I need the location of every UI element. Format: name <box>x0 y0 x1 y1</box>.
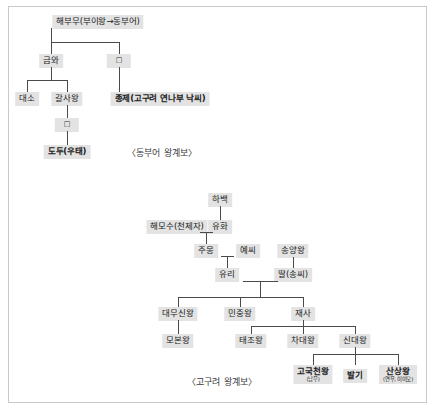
node-unnamed-descendant-box[interactable]: □ <box>55 118 79 132</box>
node-mobonwang[interactable]: 모본왕 <box>162 334 193 348</box>
node-yuri[interactable]: 유리 <box>215 268 239 282</box>
connector-sindaewang-stem <box>355 347 356 354</box>
connector-haebumu-siblings-bar <box>51 42 120 43</box>
connector-geumwa-children-bar <box>27 80 68 81</box>
node-gogukcheonwang[interactable]: 고국천왕 (남무) <box>293 365 332 384</box>
node-sansangwang-sublabel: (연우, 이이모) <box>383 377 413 383</box>
node-minjungwang[interactable]: 민중왕 <box>224 307 255 321</box>
node-daeso[interactable]: 대소 <box>15 92 39 106</box>
caption-goguryeo: 〈고구려 왕계보〉 <box>187 375 258 388</box>
connector-to-sindaewang <box>355 326 356 334</box>
node-jongje[interactable]: 종제(고구려 연나부 낙씨) <box>111 92 210 106</box>
connector-to-geumwa <box>51 42 52 54</box>
node-galsawang[interactable]: 갈사왕 <box>51 92 82 106</box>
node-taejowang[interactable]: 태조왕 <box>235 334 266 348</box>
node-haebumu[interactable]: 해부무(부이왕→동부어) <box>52 15 143 29</box>
connector-habaek-to-yuhwa <box>220 206 221 220</box>
node-unnamed-child-box[interactable]: □ <box>107 54 131 68</box>
connector-haebumu-stem <box>51 28 52 42</box>
connector-to-gogukcheonwang <box>313 354 314 365</box>
connector-songyangwang-to-daughter <box>293 257 294 268</box>
node-sansangwang-label: 산상왕 <box>386 366 409 376</box>
connector-daemusinwang-to-mobonwang <box>178 320 179 334</box>
node-daemusinwang[interactable]: 대무신왕 <box>158 307 197 321</box>
connector-to-chadaewang <box>303 326 304 334</box>
connector-to-jaesa <box>303 297 304 307</box>
caption-dongbuyeo: 〈동부어 왕계보〉 <box>127 146 198 159</box>
connector-geumwa-stem <box>51 67 52 80</box>
node-sindaewang[interactable]: 신대왕 <box>339 334 370 348</box>
node-jumong[interactable]: 주몽 <box>194 244 218 258</box>
connector-to-galsawang <box>67 80 68 92</box>
node-chadaewang[interactable]: 차대왕 <box>287 334 318 348</box>
node-gogukcheonwang-sublabel: (남무) <box>297 377 328 383</box>
genealogy-page: 해부무(부이왕→동부어) 금와 □ 대소 갈사왕 종제(고구려 연나부 낙씨) … <box>0 0 435 412</box>
node-haemosu[interactable]: 해모수(천제자) <box>146 220 207 234</box>
connector-jumong-yessi-to-yuri <box>227 256 228 268</box>
connector-to-sansangwang <box>398 354 399 365</box>
node-daughter-song[interactable]: 딸(송씨) <box>274 268 312 282</box>
node-gogukcheonwang-label: 고국천왕 <box>297 366 328 376</box>
diagram-canvas: 해부무(부이왕→동부어) 금와 □ 대소 갈사왕 종제(고구려 연나부 낙씨) … <box>0 0 435 412</box>
connector-to-daeso <box>27 80 28 92</box>
connector-unnamed-child-to-jongje <box>119 67 120 92</box>
connector-yuri-children-bar <box>178 297 304 298</box>
connector-to-minjungwang <box>240 297 241 307</box>
node-dodu[interactable]: 도두(우태) <box>44 145 91 159</box>
node-songyangwang[interactable]: 송양왕 <box>277 244 308 258</box>
node-habaek[interactable]: 하백 <box>208 193 232 207</box>
connector-galsawang-to-unnamed-descendant <box>67 105 68 118</box>
connector-yuri-children-stem <box>260 281 261 297</box>
node-balgi[interactable]: 발기 <box>343 369 367 383</box>
node-geumwa[interactable]: 금와 <box>39 54 63 68</box>
node-yessi[interactable]: 예씨 <box>236 244 260 258</box>
connector-sindaewang-children-bar <box>313 354 399 355</box>
connector-to-daemusinwang <box>178 297 179 307</box>
node-jaesa[interactable]: 재사 <box>291 307 315 321</box>
connector-to-unnamed-child <box>119 42 120 54</box>
node-sansangwang[interactable]: 산상왕 (연우, 이이모) <box>379 365 417 384</box>
connector-to-taejowang <box>251 326 252 334</box>
connector-haemosu-yuhwa-to-jumong <box>206 232 207 244</box>
connector-to-balgi <box>355 354 356 365</box>
connector-unnamed-descendant-to-dodu <box>67 131 68 145</box>
